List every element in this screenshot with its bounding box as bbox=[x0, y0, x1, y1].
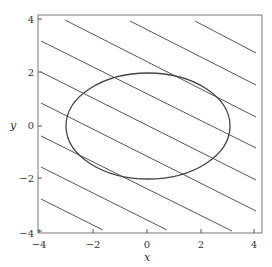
level-line bbox=[130, 21, 256, 85]
x-axis-ticks bbox=[39, 229, 254, 233]
level-line bbox=[41, 199, 103, 230]
x-tick-label: 0 bbox=[144, 239, 150, 250]
level-line bbox=[41, 136, 232, 231]
y-tick-label: 4 bbox=[28, 14, 34, 25]
y-tick-label: −4 bbox=[19, 228, 34, 239]
level-line bbox=[41, 41, 256, 148]
x-tick-labels: −4 −2 0 2 4 bbox=[32, 239, 258, 250]
level-line bbox=[41, 167, 167, 230]
level-line bbox=[65, 20, 256, 117]
x-tick-label: −4 bbox=[32, 239, 47, 250]
y-tick-label: 2 bbox=[28, 67, 34, 78]
y-tick-label: 0 bbox=[28, 120, 34, 131]
plot-frame bbox=[38, 15, 262, 233]
y-tick-labels: 4 2 0 −2 −4 bbox=[19, 14, 34, 239]
contour-plot-figure: −4 −2 0 2 4 4 2 0 −2 −4 x y bbox=[0, 0, 272, 267]
x-tick-label: 4 bbox=[251, 239, 257, 250]
y-tick-label: −2 bbox=[19, 173, 34, 184]
level-line bbox=[41, 103, 256, 211]
plot-svg: −4 −2 0 2 4 4 2 0 −2 −4 x y bbox=[0, 0, 272, 267]
level-line bbox=[41, 72, 256, 180]
y-axis-label: y bbox=[9, 119, 17, 132]
level-lines bbox=[41, 20, 256, 231]
x-axis-label: x bbox=[144, 251, 151, 264]
x-tick-label: 2 bbox=[198, 239, 204, 250]
level-line bbox=[195, 21, 256, 53]
x-tick-label: −2 bbox=[86, 239, 101, 250]
